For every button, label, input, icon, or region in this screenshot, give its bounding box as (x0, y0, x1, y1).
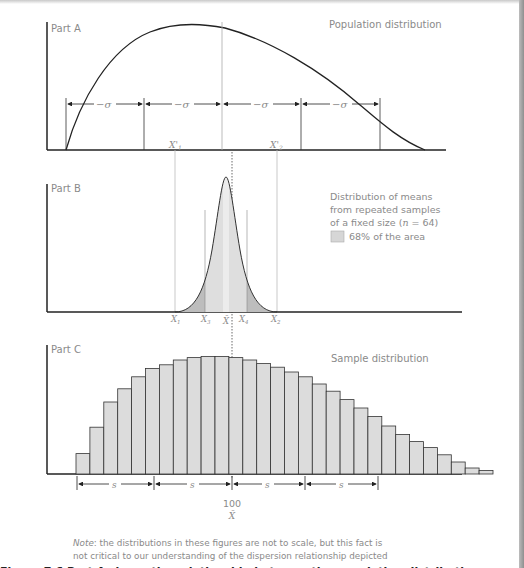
histogram-bar (326, 391, 340, 474)
histogram-bar (382, 426, 396, 474)
histogram-bar (368, 416, 382, 474)
part-c-chart: Part C Sample distribution s s s s 100 X… (47, 344, 493, 521)
part-b-chart: Part B X1 X3 X̄ X4 X2 Distribution of me… (47, 170, 462, 326)
x-prime-2-label: X'2 (269, 140, 283, 151)
histogram-bar (410, 442, 424, 474)
sigma-label: −σ (332, 99, 348, 110)
legend-swatch-label: 68% of the area (349, 231, 425, 242)
histogram-bar (465, 468, 479, 474)
histogram-bar (104, 402, 118, 474)
part-a-label: Part A (51, 23, 81, 34)
svg-text:X4: X4 (238, 314, 249, 325)
svg-text:s: s (190, 480, 195, 490)
histogram-bar (271, 367, 285, 474)
part-b-label: Part B (51, 183, 81, 194)
legend-swatch (331, 231, 344, 242)
figure-canvas: Part A Population distribution −σ −σ −σ … (0, 0, 524, 568)
svg-text:s: s (339, 480, 344, 490)
histogram-bar (229, 358, 243, 474)
histogram-bar (354, 408, 368, 474)
x-prime-1-label: X'1 (168, 140, 182, 151)
histogram-bars (76, 356, 493, 474)
svg-text:s: s (265, 480, 270, 490)
s-intervals: s s s s (77, 476, 378, 490)
histogram-bar (437, 455, 451, 474)
histogram-bar (76, 454, 90, 474)
histogram-bar (451, 462, 465, 474)
histogram-bar (340, 400, 354, 474)
center-symbol: X̄ (228, 510, 236, 521)
histogram-bar (159, 365, 173, 474)
svg-text:s: s (112, 480, 117, 490)
svg-text:X3: X3 (200, 314, 211, 325)
histogram-bar (187, 358, 201, 474)
sigma-label: −σ (96, 99, 112, 110)
part-b-legend: Distribution of means from repeated samp… (330, 191, 441, 242)
histogram-bar (215, 356, 229, 474)
histogram-bar (257, 364, 271, 474)
svg-text:Distribution of means: Distribution of means (330, 191, 433, 202)
sigma-label: −σ (253, 99, 269, 110)
part-a-title: Population distribution (329, 19, 442, 30)
histogram-bar (312, 384, 326, 474)
histogram-bar (146, 368, 160, 474)
histogram-bar (118, 389, 132, 474)
svg-text:from repeated samples: from repeated samples (330, 204, 441, 215)
population-curve (66, 24, 425, 150)
svg-text:X2: X2 (270, 314, 281, 325)
histogram-bar (173, 360, 187, 474)
part-a-chart: Part A Population distribution −σ −σ −σ … (47, 19, 446, 150)
histogram-bar (132, 377, 146, 474)
sigma-label: −σ (174, 99, 190, 110)
histogram-bar (201, 356, 215, 474)
part-c-title: Sample distribution (331, 353, 429, 364)
svg-text:of a fixed size (n = 64): of a fixed size (n = 64) (330, 217, 438, 228)
svg-text:X̄: X̄ (222, 315, 230, 326)
histogram-bar (298, 377, 312, 474)
part-c-label: Part C (51, 344, 81, 355)
histogram-bar (90, 427, 104, 474)
part-b-x-ticks: X1 X3 X̄ X4 X2 (170, 314, 281, 326)
svg-text:X1: X1 (170, 314, 181, 325)
histogram-bar (396, 434, 410, 474)
histogram-bar (424, 448, 438, 474)
histogram-bar (479, 470, 493, 474)
sigma-intervals: −σ −σ −σ −σ (68, 99, 378, 110)
center-value: 100 (223, 498, 241, 509)
histogram-bar (243, 360, 257, 474)
histogram-bar (285, 372, 299, 474)
caption-cut-off: Figure 7.6 Part A shows the relationship… (0, 560, 519, 568)
